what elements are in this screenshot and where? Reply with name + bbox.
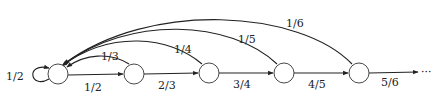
continuation-ellipsis: ···: [421, 66, 432, 79]
label-s2-s3: 3/4: [233, 78, 251, 91]
edge-s0-to-s1: [68, 74, 123, 75]
label-s2-s0: 1/4: [174, 43, 192, 56]
node-s0: [48, 64, 68, 84]
edge-s0-self-loop: [33, 67, 49, 81]
node-s4: [349, 63, 369, 83]
edge-s1-to-s0: [67, 56, 129, 67]
node-s3: [274, 63, 294, 83]
label-s1-s2: 2/3: [158, 79, 176, 92]
node-s1: [124, 64, 144, 84]
label-self-loop: 1/2: [6, 70, 24, 83]
label-s3-s4: 4/5: [308, 78, 326, 91]
markov-chain-diagram: 1/2 1/2 2/3 3/4 4/5 5/6 1/3 1/4 1/5 1/6 …: [0, 0, 442, 101]
label-s3-s0: 1/5: [238, 33, 256, 46]
label-s4-cont: 5/6: [381, 76, 399, 89]
node-s2: [199, 63, 219, 83]
label-s1-s0: 1/3: [101, 50, 119, 63]
edge-s4-to-continuation: [369, 72, 418, 73]
label-s0-s1: 1/2: [84, 81, 102, 94]
edge-s1-to-s2: [144, 73, 198, 74]
label-s4-s0: 1/6: [286, 17, 304, 30]
